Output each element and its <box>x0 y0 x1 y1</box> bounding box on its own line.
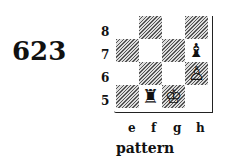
square-g7 <box>162 39 185 62</box>
rank-label-7: 7 <box>101 48 109 62</box>
rank-label-5: 5 <box>101 94 109 108</box>
chess-board: ♝ ♙ ♜ ♔ <box>116 16 208 108</box>
square-g8 <box>162 16 185 39</box>
file-label-e: e <box>128 121 136 135</box>
file-label-h: h <box>196 121 205 135</box>
file-label-g: g <box>173 121 181 135</box>
square-e5 <box>116 85 139 108</box>
square-g6 <box>162 62 185 85</box>
black-bishop-icon: ♝ <box>185 39 208 62</box>
file-label-f: f <box>151 121 156 135</box>
square-f6 <box>139 62 162 85</box>
square-e7 <box>116 39 139 62</box>
rank-label-6: 6 <box>101 71 109 85</box>
square-e8 <box>116 16 139 39</box>
square-f8 <box>139 16 162 39</box>
black-rook-icon: ♜ <box>139 85 162 108</box>
diagram-number: 623 <box>12 36 66 66</box>
square-h8 <box>185 16 208 39</box>
square-e6 <box>116 62 139 85</box>
square-f7 <box>139 39 162 62</box>
rank-label-8: 8 <box>101 25 109 39</box>
white-king-icon: ♔ <box>162 85 185 108</box>
square-h5 <box>185 85 208 108</box>
diagram-caption: pattern <box>116 140 174 156</box>
white-pawn-icon: ♙ <box>185 62 208 85</box>
